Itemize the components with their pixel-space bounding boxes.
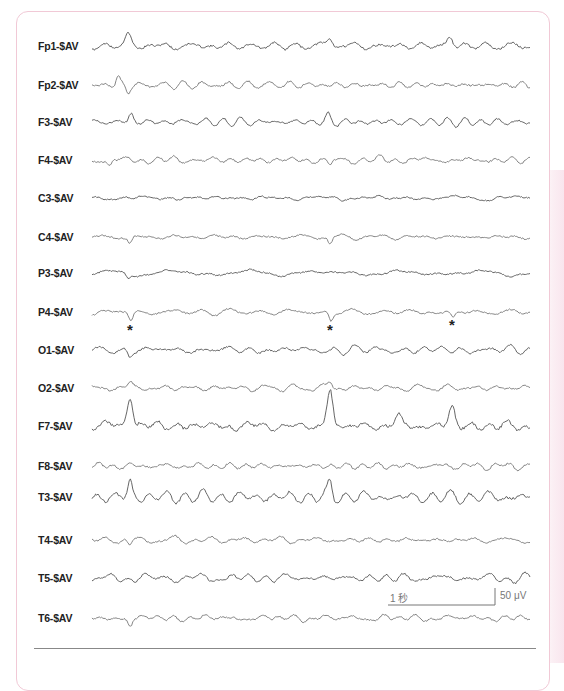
trace-o2-av [92, 382, 530, 392]
trace-c4-av [92, 234, 530, 244]
trace-fp2-av [92, 76, 530, 94]
trace-p3-av [92, 269, 530, 279]
asterisk-marker-1: * [127, 322, 133, 337]
trace-t4-av [92, 535, 530, 545]
trace-f7-av [92, 390, 530, 432]
bottom-divider [34, 648, 536, 649]
trace-c3-av [92, 195, 530, 201]
trace-f3-av [92, 112, 530, 128]
trace-t3-av [92, 479, 530, 505]
trace-f4-av [92, 155, 530, 166]
trace-o1-av [92, 344, 530, 357]
trace-p4-av [92, 308, 530, 321]
calibration-amplitude-label: 50 μV [500, 590, 526, 601]
calibration-time-label: 1 秒 [390, 590, 408, 605]
trace-t6-av [92, 614, 530, 626]
trace-f8-av [92, 462, 530, 471]
asterisk-marker-3: * [449, 317, 455, 332]
trace-t5-av [92, 572, 530, 584]
trace-fp1-av [92, 32, 530, 50]
asterisk-marker-2: * [327, 322, 333, 337]
